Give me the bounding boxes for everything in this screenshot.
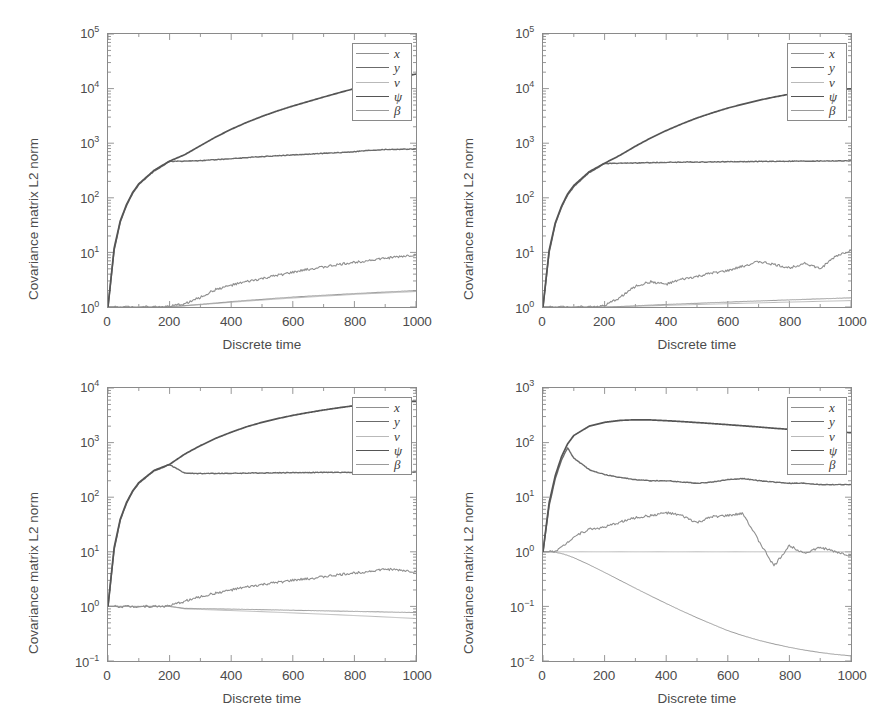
legend-entry-v[interactable]: v — [356, 430, 408, 443]
legend-swatch-x — [791, 407, 824, 408]
x-axis-tick-label: 1000 — [402, 668, 431, 683]
legend-label-v: v — [394, 76, 408, 89]
legend-entry-y[interactable]: y — [791, 61, 843, 74]
legend-swatch-y — [356, 421, 389, 422]
legend-entry-x[interactable]: x — [791, 47, 843, 60]
y-axis-tick-label: 103 — [41, 136, 99, 151]
legend-entry-x[interactable]: x — [356, 401, 408, 414]
legend-swatch-x — [356, 407, 389, 408]
legend-top-right[interactable]: xyvψβ˙ — [787, 43, 847, 121]
legend-label-v: v — [394, 430, 408, 443]
legend-swatch-psi — [356, 450, 389, 451]
legend-entry-v[interactable]: v — [791, 76, 843, 89]
y-axis-tick-label: 101 — [41, 545, 99, 560]
y-axis-tick-label: 102 — [476, 435, 534, 450]
x-axis-tick-label: 800 — [344, 668, 366, 683]
x-axis-title-top-right: Discrete time — [592, 337, 802, 352]
legend-bottom-left[interactable]: xyvψβ˙ — [352, 397, 412, 475]
y-axis-tick-label: 100 — [476, 301, 534, 316]
legend-label-y: y — [394, 415, 408, 428]
legend-swatch-psi — [791, 96, 824, 97]
legend-swatch-betadot — [356, 464, 389, 465]
x-axis-title-bottom-right: Discrete time — [592, 691, 802, 706]
legend-entry-betadot[interactable]: β˙ — [791, 458, 843, 471]
legend-label-v: v — [829, 430, 843, 443]
legend-label-betadot: β˙ — [394, 104, 408, 117]
y-axis-tick-label: 101 — [476, 246, 534, 261]
y-axis-title-top-right: Covariance matrix L2 norm — [461, 138, 476, 300]
legend-entry-y[interactable]: y — [356, 415, 408, 428]
figure-canvas: 100101102103104105 02004006008001000 Dis… — [0, 0, 870, 727]
series-line-v — [108, 606, 416, 618]
x-axis-tick-label: 1000 — [837, 314, 866, 329]
legend-swatch-v — [791, 82, 824, 83]
legend-label-accent-betadot: ˙ — [397, 453, 401, 464]
legend-bottom-right[interactable]: xyvψβ˙ — [787, 397, 847, 475]
legend-entry-v[interactable]: v — [791, 430, 843, 443]
legend-label-accent-betadot: ˙ — [397, 99, 401, 110]
x-axis-tick-label: 0 — [103, 668, 110, 683]
legend-label-x: x — [394, 47, 408, 60]
x-axis-tick-label: 600 — [282, 314, 304, 329]
legend-top-left[interactable]: xyvψβ˙ — [352, 43, 412, 121]
legend-entry-betadot[interactable]: β˙ — [356, 104, 408, 117]
legend-swatch-y — [791, 67, 824, 68]
y-axis-tick-label: 101 — [41, 246, 99, 261]
x-axis-tick-label: 400 — [220, 314, 242, 329]
y-axis-tick-label: 103 — [476, 380, 534, 395]
legend-swatch-betadot — [791, 110, 824, 111]
x-axis-tick-label: 400 — [655, 668, 677, 683]
legend-label-y: y — [829, 61, 843, 74]
x-axis-tick-label: 0 — [103, 314, 110, 329]
legend-entry-x[interactable]: x — [356, 47, 408, 60]
y-axis-tick-label: 103 — [41, 435, 99, 450]
y-axis-tick-label: 103 — [476, 136, 534, 151]
series-line-y — [543, 161, 851, 307]
x-axis-tick-label: 200 — [158, 668, 180, 683]
x-axis-tick-label: 1000 — [402, 314, 431, 329]
x-axis-tick-label: 600 — [717, 314, 739, 329]
legend-swatch-v — [791, 436, 824, 437]
legend-swatch-betadot — [356, 110, 389, 111]
y-axis-title-bottom-left: Covariance matrix L2 norm — [26, 492, 41, 654]
subplot-bottom-right: 10−210−1100101102103 02004006008001000 D… — [435, 364, 870, 727]
legend-label-y: y — [829, 415, 843, 428]
legend-swatch-y — [356, 67, 389, 68]
x-axis-tick-label: 400 — [220, 668, 242, 683]
legend-label-betadot: β˙ — [829, 458, 843, 471]
y-axis-tick-label: 10−1 — [41, 655, 99, 670]
y-axis-tick-label: 10−1 — [476, 600, 534, 615]
legend-entry-betadot[interactable]: β˙ — [356, 458, 408, 471]
x-axis-tick-label: 200 — [593, 668, 615, 683]
legend-label-accent-betadot: ˙ — [832, 99, 836, 110]
x-axis-tick-label: 800 — [779, 668, 801, 683]
legend-entry-y[interactable]: y — [356, 61, 408, 74]
y-axis-tick-label: 105 — [41, 26, 99, 41]
y-axis-tick-label: 104 — [476, 81, 534, 96]
x-axis-tick-label: 0 — [538, 314, 545, 329]
y-axis-tick-label: 100 — [41, 301, 99, 316]
legend-entry-v[interactable]: v — [356, 76, 408, 89]
legend-swatch-x — [791, 53, 824, 54]
legend-entry-betadot[interactable]: β˙ — [791, 104, 843, 117]
x-axis-tick-label: 800 — [779, 314, 801, 329]
y-axis-tick-label: 100 — [476, 545, 534, 560]
series-line-y — [108, 465, 416, 607]
legend-entry-y[interactable]: y — [791, 415, 843, 428]
series-line-betadot — [543, 552, 851, 656]
legend-label-x: x — [394, 401, 408, 414]
y-axis-tick-label: 10−2 — [476, 655, 534, 670]
legend-label-betadot: β˙ — [829, 104, 843, 117]
subplot-top-right: 100101102103104105 02004006008001000 Dis… — [435, 0, 870, 364]
legend-swatch-y — [791, 421, 824, 422]
legend-swatch-betadot — [791, 464, 824, 465]
legend-entry-x[interactable]: x — [791, 401, 843, 414]
legend-swatch-psi — [356, 96, 389, 97]
series-line-x — [543, 512, 851, 566]
legend-swatch-v — [356, 82, 389, 83]
legend-swatch-v — [356, 436, 389, 437]
series-line-x — [543, 250, 851, 307]
legend-swatch-x — [356, 53, 389, 54]
x-axis-tick-label: 0 — [538, 668, 545, 683]
y-axis-tick-label: 104 — [41, 380, 99, 395]
